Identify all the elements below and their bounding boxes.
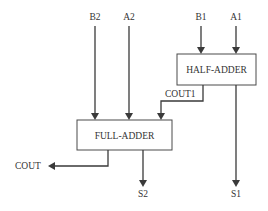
adder-diagram: B2 A2 B1 A1 HALF-ADDER S1 COUT1 FULL-: [0, 0, 268, 211]
output-label-cout: COUT: [15, 161, 41, 171]
input-label-b2: B2: [89, 12, 100, 22]
arrow-head-icon: [91, 113, 99, 120]
arrow-head-icon: [139, 180, 147, 187]
half-adder-block: HALF-ADDER: [177, 54, 256, 85]
wire-a2: [125, 26, 133, 120]
full-adder-label: FULL-ADDER: [95, 131, 155, 141]
half-adder-label: HALF-ADDER: [186, 65, 247, 75]
input-label-a1: A1: [230, 12, 242, 22]
wire-s1: [232, 85, 240, 187]
arrow-head-icon: [232, 47, 240, 54]
arrow-head-icon: [232, 180, 240, 187]
arrow-head-icon: [157, 113, 165, 120]
input-label-a2: A2: [123, 12, 135, 22]
output-label-s2: S2: [138, 189, 148, 199]
arrow-head-icon: [48, 162, 55, 170]
output-label-s1: S1: [231, 189, 241, 199]
arrow-head-icon: [197, 47, 205, 54]
full-adder-block: FULL-ADDER: [77, 120, 172, 150]
arrow-head-icon: [125, 113, 133, 120]
wire-b2: [91, 26, 99, 120]
wire-b1: [197, 26, 205, 54]
wire-s2: [139, 150, 147, 187]
signal-label-cout1: COUT1: [165, 89, 196, 99]
input-label-b1: B1: [195, 12, 206, 22]
wire-a1: [232, 26, 240, 54]
wire-cout: [48, 150, 108, 170]
